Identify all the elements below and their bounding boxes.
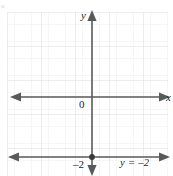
y-intercept-label: –2 [73,159,84,170]
coordinate-plane [0,0,173,176]
graph-figure: ≡ [0,0,173,176]
y-intercept-point [89,154,95,160]
y-axis-label: y [81,10,86,21]
grid-background [7,12,168,176]
equation-label: y = –2 [120,158,149,169]
origin-label: 0 [79,99,85,110]
x-axis-label: x [166,92,171,103]
